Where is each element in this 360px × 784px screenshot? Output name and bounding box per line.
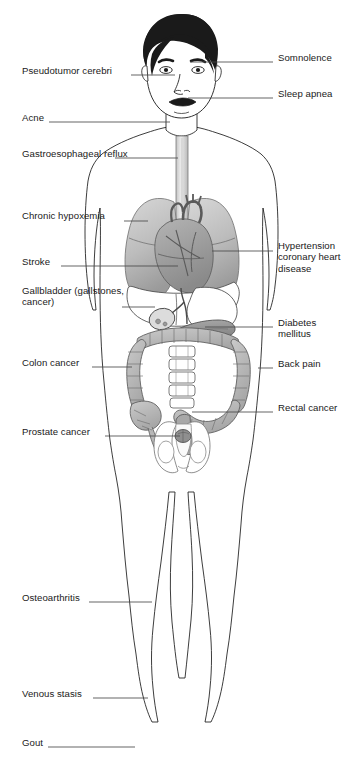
left-ear: [142, 66, 148, 81]
label-pseudotumor-cerebri: Pseudotumor cerebri: [22, 65, 112, 76]
left-obturator-foramen: [158, 441, 174, 463]
label-osteoarthritis: Osteoarthritis: [22, 592, 80, 603]
label-venous-stasis: Venous stasis: [22, 688, 82, 699]
label-sleep-apnea: Sleep apnea: [278, 88, 332, 99]
label-hypertension-coronary-heart-disease: Hypertension coronary heart disease: [278, 240, 358, 274]
label-stroke: Stroke: [22, 256, 50, 267]
right-pupil: [196, 68, 200, 72]
obesity-conditions-diagram: Pseudotumor cerebri Acne Gastroesophagea…: [0, 0, 360, 784]
label-gallbladder: Gallbladder (gallstones, cancer): [22, 285, 127, 308]
lumbar-spine: [169, 346, 195, 408]
label-gout: Gout: [22, 737, 43, 748]
body-diagram-svg: [0, 0, 360, 784]
right-ear: [215, 66, 221, 81]
label-gastroesophageal-reflux: Gastroesophageal reflux: [22, 148, 132, 159]
label-chronic-hypoxemia: Chronic hypoxemia: [22, 210, 105, 221]
label-prostate-cancer: Prostate cancer: [22, 426, 90, 437]
label-rectal-cancer: Rectal cancer: [278, 402, 337, 413]
left-pupil: [164, 68, 168, 72]
label-somnolence: Somnolence: [278, 52, 332, 63]
right-obturator-foramen: [190, 441, 206, 463]
label-colon-cancer: Colon cancer: [22, 357, 79, 368]
label-diabetes-mellitus: Diabetes mellitus: [278, 317, 350, 340]
label-acne: Acne: [22, 112, 44, 123]
label-back-pain: Back pain: [278, 358, 321, 369]
